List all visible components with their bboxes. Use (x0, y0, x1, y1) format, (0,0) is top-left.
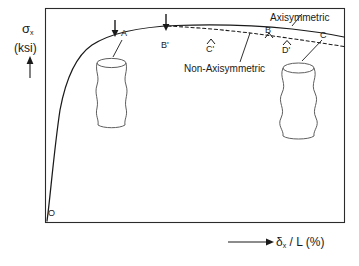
y-axis-arrow (27, 56, 34, 78)
non-axisymmetric-curve (168, 26, 344, 47)
arrow-marker-b-prime (163, 14, 170, 31)
point-label-c-prime: C' (206, 45, 214, 54)
curve-label-non-axisymmetric: Non-Axisymmetric (184, 64, 265, 74)
leader-non-axisymmetric (240, 33, 250, 62)
y-axis-symbol: σx (22, 22, 34, 36)
y-axis-units: (ksi) (14, 42, 37, 54)
specimen-non-axisymmetric (280, 63, 317, 139)
point-label-b: B (265, 26, 271, 35)
x-axis-arrow (228, 239, 274, 246)
stress-strain-figure: σx (ksi) A B' C' B D' C Axisymmetric Non… (0, 0, 359, 266)
specimen-axisymmetric (96, 58, 127, 127)
y-axis-sigma: σ (22, 21, 30, 36)
origin-label: O (48, 209, 55, 218)
point-label-d-prime: D' (282, 46, 290, 55)
x-axis-label: δx / L (%) (276, 236, 324, 249)
point-label-b-prime: B' (161, 41, 169, 50)
axisymmetric-curve (47, 25, 344, 221)
leader-point-a (113, 40, 122, 57)
x-axis-rest: / L (%) (286, 235, 324, 249)
figure-canvas (0, 0, 359, 266)
point-label-a: A (121, 29, 127, 38)
point-label-c: C (320, 31, 327, 40)
leader-point-c (302, 40, 322, 61)
x-axis-delta: δ (276, 235, 283, 249)
y-axis-subscript: x (30, 29, 34, 36)
curve-label-axisymmetric: Axisymmetric (270, 13, 329, 23)
plot-frame (46, 9, 345, 223)
